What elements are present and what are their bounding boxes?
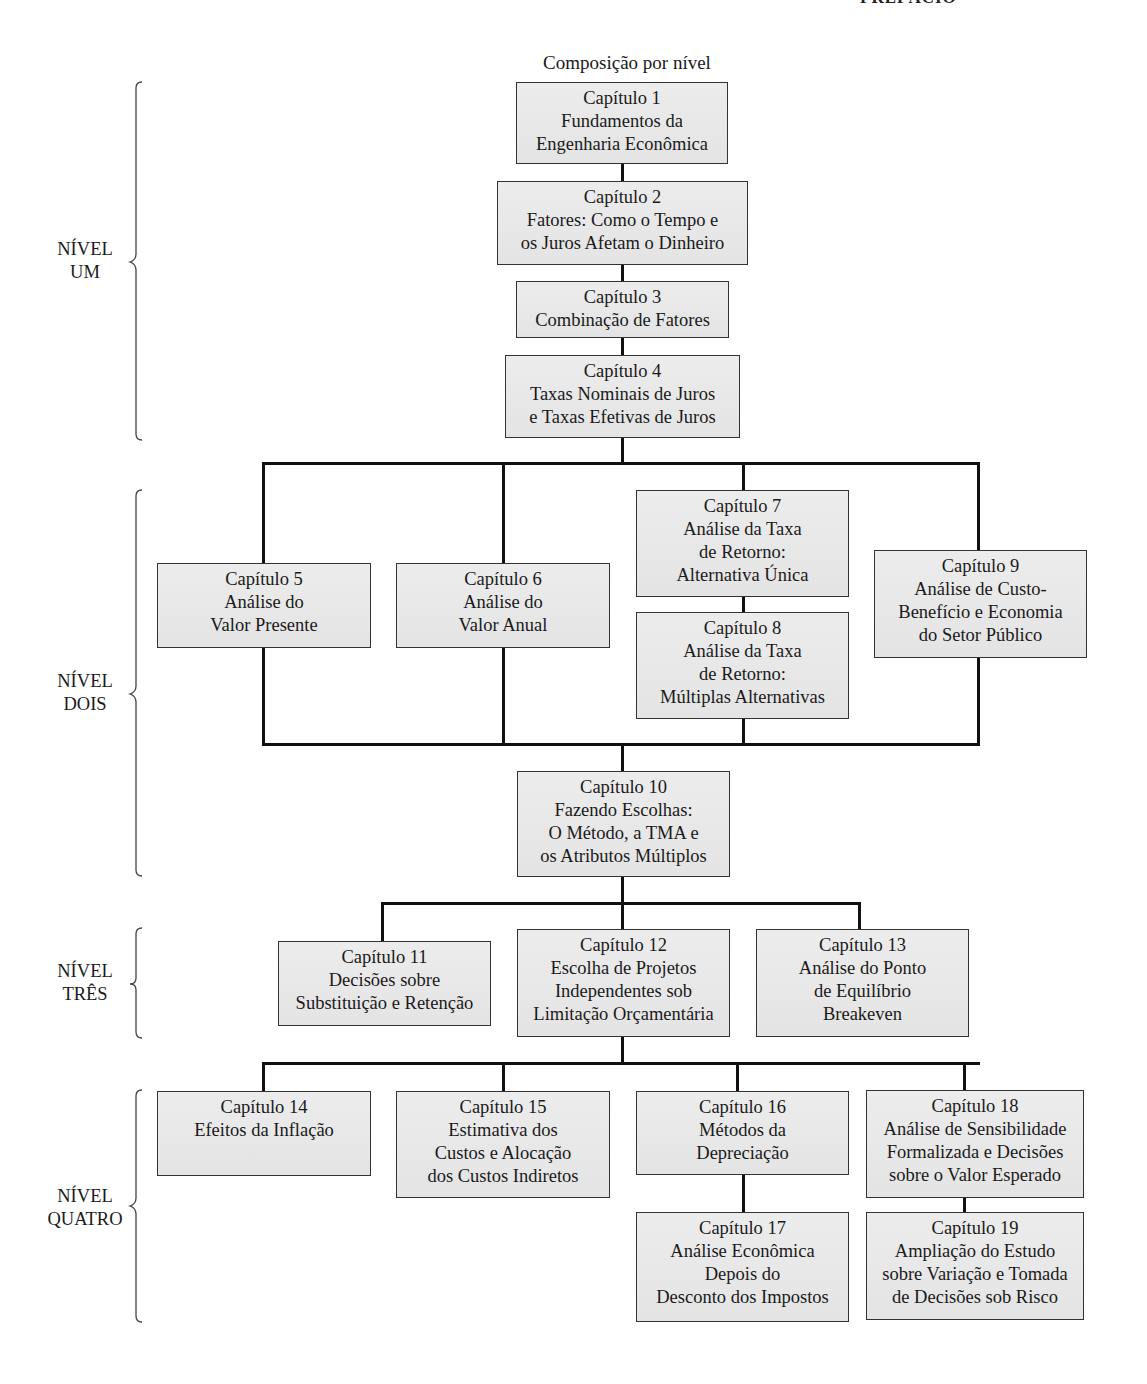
chapter-5-box: Capítulo 5Análise doValor Presente (157, 563, 371, 648)
chapter-18-box: Capítulo 18Análise de SensibilidadeForma… (866, 1090, 1084, 1198)
connector (621, 163, 624, 181)
connector (621, 743, 624, 771)
chapter-8-box: Capítulo 8Análise da Taxade Retorno:Múlt… (636, 612, 849, 719)
level-three-label: NÍVEL TRÊS (40, 960, 130, 1006)
level-four-label: NÍVEL QUATRO (40, 1185, 130, 1231)
chapter-9-box: Capítulo 9Análise de Custo-Benefício e E… (874, 550, 1087, 658)
connector (621, 263, 624, 281)
connector (858, 902, 861, 930)
chapter-15-box: Capítulo 15Estimativa dosCustos e Alocaç… (396, 1091, 610, 1198)
connector (262, 462, 980, 465)
chapter-11-box: Capítulo 11Decisões sobreSubstituição e … (278, 941, 491, 1026)
connector (736, 1062, 739, 1092)
level-one-label: NÍVEL UM (40, 238, 130, 284)
connector (963, 1062, 966, 1092)
level-two-label: NÍVEL DOIS (40, 670, 130, 716)
brace-level-1 (128, 82, 148, 442)
chapter-13-box: Capítulo 13Análise do Pontode Equilíbrio… (756, 929, 969, 1037)
connector (262, 1062, 980, 1065)
chapter-17-box: Capítulo 17Análise EconômicaDepois doDes… (636, 1212, 849, 1322)
chapter-7-box: Capítulo 7Análise da Taxade Retorno:Alte… (636, 490, 849, 597)
brace-level-4 (128, 1090, 148, 1325)
connector (621, 1036, 624, 1064)
chapter-12-box: Capítulo 12Escolha de ProjetosIndependen… (517, 929, 730, 1037)
connector (621, 437, 624, 464)
chapter-4-box: Capítulo 4Taxas Nominais de Jurose Taxas… (505, 355, 740, 438)
brace-level-2 (128, 490, 148, 880)
chapter-1-box: Capítulo 1Fundamentos daEngenharia Econô… (516, 82, 728, 164)
connector (262, 1062, 265, 1092)
chapter-10-box: Capítulo 10Fazendo Escolhas:O Método, a … (517, 771, 730, 877)
chapter-19-box: Capítulo 19Ampliação do Estudosobre Vari… (866, 1212, 1084, 1320)
connector (742, 1173, 745, 1213)
chapter-2-box: Capítulo 2Fatores: Como o Tempo eos Juro… (497, 181, 748, 265)
brace-level-3 (128, 928, 148, 1040)
connector (963, 1197, 966, 1213)
chapter-16-box: Capítulo 16Métodos daDepreciação (636, 1091, 849, 1175)
connector (381, 902, 861, 905)
diagram-title: Composição por nível (519, 52, 735, 74)
chapter-6-box: Capítulo 6Análise doValor Anual (396, 563, 610, 648)
page-header: PREFÁCIO (860, 0, 957, 8)
connector (502, 1062, 505, 1092)
chapter-14-box: Capítulo 14Efeitos da Inflação (157, 1091, 371, 1176)
connector (381, 902, 384, 942)
chapter-3-box: Capítulo 3Combinação de Fatores (516, 281, 729, 338)
connector (621, 337, 624, 355)
